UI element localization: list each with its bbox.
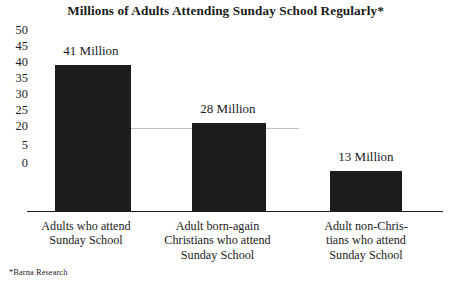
y-tick-label-40: 40 [0,56,28,68]
y-tick-label-0: 0 [0,157,28,169]
y-tick-label-35: 35 [0,72,28,84]
bar-chart-figure: Millions of Adults Attending Sunday Scho… [0,0,451,296]
category-label-3-line-3: Sunday School [287,248,445,262]
y-tick-label-5: 5 [0,139,28,151]
category-label-2-line-1: Adult born-again [124,219,311,233]
y-tick-label-50: 50 [0,24,28,36]
bar-adult-born-again-christians [192,123,266,212]
bar-value-label-1: 41 Million [36,44,146,57]
bar-adults-who-attend-sunday-school [55,65,131,212]
chart-title: Millions of Adults Attending Sunday Scho… [0,3,451,19]
y-tick-label-20: 20 [0,120,28,132]
category-label-2-line-3: Sunday School [124,248,311,262]
category-label-2-line-2: Christians who attend [124,233,311,247]
x-axis-line [27,211,443,212]
bar-value-label-2: 28 Million [173,102,283,115]
y-tick-label-45: 45 [0,40,28,52]
category-label-3: Adult non-Chris- tians who attend Sunday… [287,219,445,262]
category-label-2: Adult born-again Christians who attend S… [124,219,311,262]
y-tick-label-25: 25 [0,104,28,116]
y-tick-label-30: 30 [0,88,28,100]
category-label-3-line-1: Adult non-Chris- [287,219,445,233]
bar-adult-non-christians [330,171,402,212]
y-axis: 50 45 40 35 30 25 20 5 0 [0,24,28,214]
bar-value-label-3: 13 Million [311,150,421,163]
category-label-3-line-2: tians who attend [287,233,445,247]
source-footnote: *Barna Research [9,268,67,277]
